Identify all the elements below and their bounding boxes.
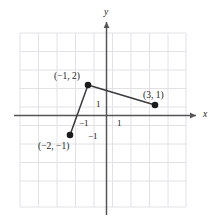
point-label-neg2-neg1: (−2, −1) — [38, 142, 69, 152]
coordinate-plane-svg — [0, 0, 219, 220]
point-marker-3 — [67, 132, 74, 139]
x-tick-label-positive-one: 1 — [117, 119, 122, 128]
x-axis — [14, 113, 196, 119]
point-marker-1 — [85, 82, 92, 89]
grid-lines — [20, 33, 186, 207]
y-tick-label-positive-one: 1 — [96, 100, 101, 109]
x-axis-label: x — [203, 110, 207, 120]
y-tick-label-negative-one: −1 — [88, 132, 98, 141]
graph-figure: (−1, 2) (3, 1) (−2, −1) 1 1 −1 −1 x y — [0, 0, 219, 220]
y-axis — [104, 22, 110, 215]
y-axis-label: y — [104, 8, 108, 18]
point-marker-2 — [152, 102, 159, 109]
point-label-neg1-2: (−1, 2) — [54, 72, 80, 82]
x-tick-label-negative-one: −1 — [79, 119, 89, 128]
point-label-3-1: (3, 1) — [143, 91, 164, 101]
